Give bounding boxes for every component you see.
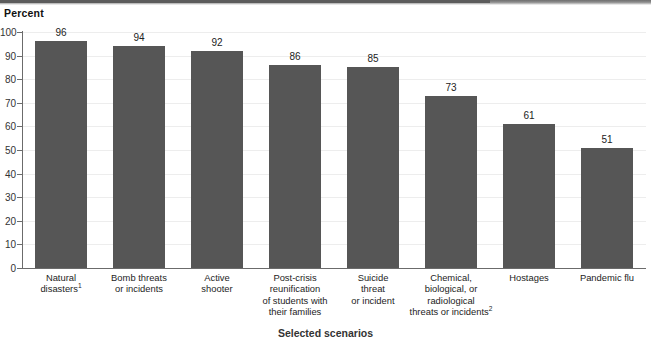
bar-group[interactable]: 61	[492, 32, 566, 268]
bar-group[interactable]: 85	[336, 32, 410, 268]
bar-group[interactable]: 73	[414, 32, 488, 268]
bar-value-label: 51	[570, 134, 644, 145]
y-axis-title: Percent	[4, 7, 44, 19]
category-label-line: Natural	[19, 272, 103, 283]
category-label-line: threats or incidents2	[409, 306, 493, 317]
category-label-line: disasters1	[19, 283, 103, 294]
bar[interactable]	[113, 46, 165, 268]
y-tick-label: 40	[0, 168, 16, 179]
category-label-line: Chemical,	[409, 272, 493, 283]
y-tick-label: 50	[0, 145, 16, 156]
bar[interactable]	[347, 67, 399, 268]
x-axis-line	[22, 268, 646, 269]
y-tick-label: 30	[0, 192, 16, 203]
y-tick-label: 90	[0, 50, 16, 61]
bar-value-label: 86	[258, 51, 332, 62]
bar-value-label: 73	[414, 82, 488, 93]
y-tick-label: 80	[0, 74, 16, 85]
category-label-line: shooter	[175, 283, 259, 294]
bar[interactable]	[35, 41, 87, 268]
y-tick-label: 0	[0, 263, 16, 274]
x-axis-category-label: Post-crisisreunificationof students with…	[253, 272, 337, 318]
bar-value-label: 94	[102, 32, 176, 43]
x-axis-category-label: Chemical,biological, orradiologicalthrea…	[409, 272, 493, 318]
category-label-line: Post-crisis	[253, 272, 337, 283]
category-label-line: reunification	[253, 283, 337, 294]
bar-group[interactable]: 86	[258, 32, 332, 268]
bar[interactable]	[191, 51, 243, 268]
footnote-marker: 1	[78, 282, 82, 289]
bar[interactable]	[425, 96, 477, 268]
bar[interactable]	[503, 124, 555, 268]
category-label-line: their families	[253, 306, 337, 317]
category-label-line: Pandemic flu	[565, 272, 649, 283]
x-axis-category-label: Suicidethreator incident	[331, 272, 415, 306]
y-tick-label: 100	[0, 27, 16, 38]
bar[interactable]	[581, 148, 633, 268]
bar-value-label: 96	[24, 27, 98, 38]
category-label-line: or incidents	[97, 283, 181, 294]
category-label-line: Active	[175, 272, 259, 283]
x-axis-category-labels: Naturaldisasters1Bomb threatsor incident…	[22, 272, 646, 334]
bar-group[interactable]: 51	[570, 32, 644, 268]
category-label-line: Suicide	[331, 272, 415, 283]
x-axis-title: Selected scenarios	[0, 327, 651, 337]
x-axis-category-label: Pandemic flu	[565, 272, 649, 283]
x-axis-category-label: Activeshooter	[175, 272, 259, 295]
category-label-line: or incident	[331, 295, 415, 306]
x-axis-category-label: Bomb threatsor incidents	[97, 272, 181, 295]
bar-group[interactable]: 96	[24, 32, 98, 268]
category-label-line: of students with	[253, 295, 337, 306]
y-tick-label: 10	[0, 239, 16, 250]
category-label-line: biological, or	[409, 283, 493, 294]
bar-chart: Percent 0102030405060708090100 969492868…	[0, 0, 651, 337]
footnote-marker: 2	[489, 305, 493, 312]
category-label-line: Hostages	[487, 272, 571, 283]
bar-group[interactable]: 92	[180, 32, 254, 268]
y-tick-label: 60	[0, 121, 16, 132]
bar[interactable]	[269, 65, 321, 268]
x-axis-category-label: Hostages	[487, 272, 571, 283]
plot-area: 9694928685736151	[22, 32, 646, 268]
category-label-line: radiological	[409, 295, 493, 306]
bar-value-label: 85	[336, 53, 410, 64]
y-tick-label: 70	[0, 97, 16, 108]
bar-value-label: 61	[492, 110, 566, 121]
bar-value-label: 92	[180, 37, 254, 48]
x-axis-category-label: Naturaldisasters1	[19, 272, 103, 295]
category-label-line: Bomb threats	[97, 272, 181, 283]
y-tick-label: 20	[0, 215, 16, 226]
bar-group[interactable]: 94	[102, 32, 176, 268]
category-label-line: threat	[331, 283, 415, 294]
